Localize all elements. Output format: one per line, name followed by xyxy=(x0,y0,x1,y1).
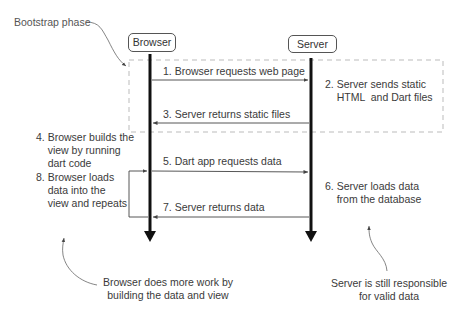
server-actor-box: Server xyxy=(288,35,337,53)
browser-callout-curve xyxy=(63,238,97,285)
step-8-note: 8. Browser loads data into the view and … xyxy=(36,171,127,210)
message-5-label: 5. Dart app requests data xyxy=(163,155,282,168)
step-2-note: 2. Server sends static HTML and Dart fil… xyxy=(325,78,433,104)
message-3-label: 3. Server returns static files xyxy=(163,108,290,121)
bootstrap-pointer-curve xyxy=(86,22,126,66)
browser-lifeline-arrowhead xyxy=(144,231,156,242)
server-lifeline-arrowhead xyxy=(305,231,317,242)
browser-actor-box: Browser xyxy=(128,33,176,52)
browser-callout-text: Browser does more work by building the d… xyxy=(102,276,234,302)
message-1-label: 1. Browser requests web page xyxy=(163,65,305,78)
step-6-note: 6. Server loads data from the database xyxy=(325,180,421,206)
message-7-label: 7. Server returns data xyxy=(163,201,265,214)
bootstrap-phase-label: Bootstrap phase xyxy=(14,16,90,29)
message-5-arrow xyxy=(152,171,308,172)
step-4-note: 4. Browser builds the view by running da… xyxy=(36,131,134,170)
server-callout-text: Server is still responsible for valid da… xyxy=(330,277,448,303)
repeat-loop-line xyxy=(129,171,148,217)
server-callout-curve xyxy=(369,226,387,271)
